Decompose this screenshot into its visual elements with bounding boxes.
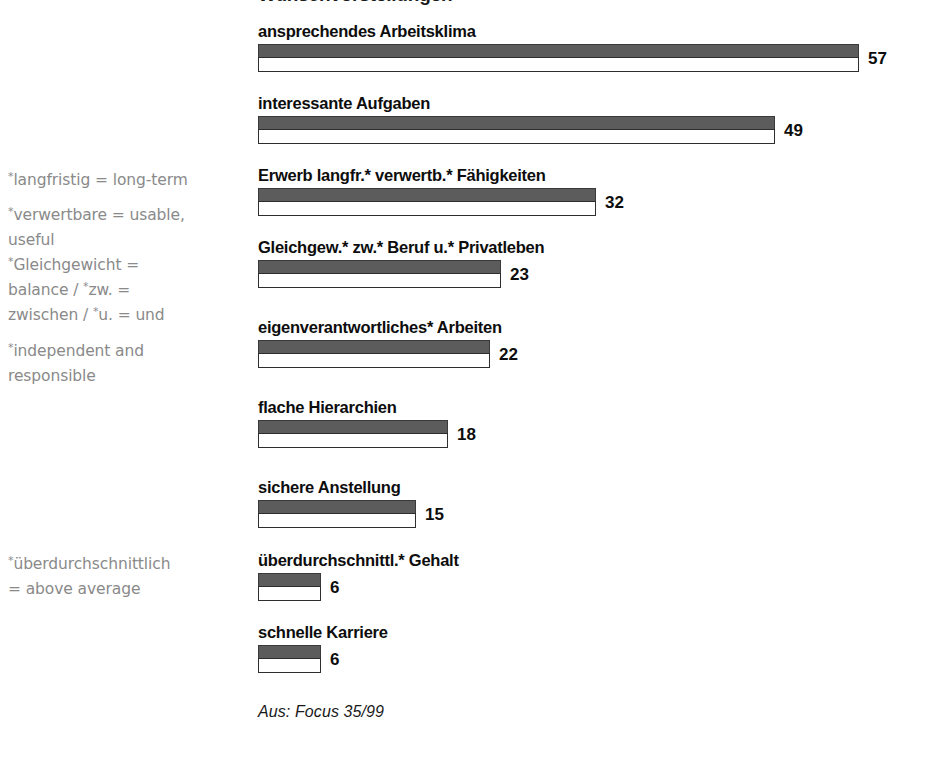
- bar-value: 6: [330, 579, 339, 596]
- annotation-line: useful: [8, 228, 246, 253]
- bar-label: interessante Aufgaben: [258, 94, 430, 113]
- bar-outline-segment: [258, 273, 501, 288]
- bar-fill-segment: [258, 188, 596, 201]
- bar-label: eigenverantwortliches* Arbeiten: [258, 318, 502, 337]
- annotation-column: *langfristig = long-term*verwertbare = u…: [4, 0, 250, 758]
- bar-value: 49: [784, 122, 803, 139]
- bar: [258, 573, 321, 601]
- bar-label: überdurchschnittl.* Gehalt: [258, 551, 459, 570]
- bar: [258, 188, 596, 216]
- bar-outline-segment: [258, 513, 416, 528]
- bar: [258, 116, 775, 144]
- bar-value: 18: [457, 426, 476, 443]
- annot-verwertbare: *verwertbare = usable,useful: [8, 203, 246, 253]
- annot-ueberdurchschnittlich: *überdurchschnittlich= above average: [8, 552, 246, 602]
- footnote-star: *: [8, 205, 13, 218]
- bar-label: Gleichgew.* zw.* Beruf u.* Privatleben: [258, 238, 544, 257]
- bar: [258, 340, 490, 368]
- bar-fill-segment: [258, 44, 859, 57]
- annotation-line: *überdurchschnittlich: [8, 552, 246, 577]
- bar: [258, 500, 416, 528]
- annotation-line: = above average: [8, 577, 246, 602]
- bar-value: 6: [330, 651, 339, 668]
- footnote-star: *: [83, 280, 88, 293]
- footnote-star: *: [8, 341, 13, 354]
- bar-label: schnelle Karriere: [258, 623, 388, 642]
- bar-value: 15: [425, 506, 444, 523]
- bar: [258, 645, 321, 673]
- bar: [258, 420, 448, 448]
- annot-independent: *independent andresponsible: [8, 339, 246, 389]
- annot-langfristig: *langfristig = long-term: [8, 168, 246, 193]
- bar-outline-segment: [258, 433, 448, 448]
- bar-fill-segment: [258, 420, 448, 433]
- source-caption: Aus: Focus 35/99: [258, 703, 384, 721]
- bar-fill-segment: [258, 260, 501, 273]
- footnote-star: *: [8, 255, 13, 268]
- bar-outline-segment: [258, 57, 859, 72]
- annotation-line: zwischen / *u. = und: [8, 303, 246, 328]
- bar-fill-segment: [258, 573, 321, 586]
- annotation-line: responsible: [8, 364, 246, 389]
- bar-outline-segment: [258, 658, 321, 673]
- bar-label: flache Hierarchien: [258, 398, 397, 417]
- bar-value: 23: [510, 266, 529, 283]
- annotation-line: balance / *zw. =: [8, 278, 246, 303]
- bar: [258, 260, 501, 288]
- bar-value: 32: [605, 194, 624, 211]
- footnote-star: *: [93, 305, 98, 318]
- annotation-line: *Gleichgewicht =: [8, 253, 246, 278]
- bar-fill-segment: [258, 340, 490, 353]
- footnote-star: *: [8, 170, 13, 183]
- annotation-line: *verwertbare = usable,: [8, 203, 246, 228]
- bar-value: 22: [499, 346, 518, 363]
- annotation-line: *independent and: [8, 339, 246, 364]
- bar-outline-segment: [258, 201, 596, 216]
- bar-fill-segment: [258, 645, 321, 658]
- annot-gleichgewicht: *Gleichgewicht =balance / *zw. =zwischen…: [8, 253, 246, 328]
- bar-fill-segment: [258, 116, 775, 129]
- bar: [258, 44, 859, 72]
- bar-outline-segment: [258, 353, 490, 368]
- bar-label: ansprechendes Arbeitsklima: [258, 22, 476, 41]
- bar-chart: ansprechendes Arbeitsklima57interessante…: [258, 0, 948, 758]
- bar-outline-segment: [258, 586, 321, 601]
- bar-label: Erwerb langfr.* verwertb.* Fähigkeiten: [258, 166, 546, 185]
- footnote-star: *: [8, 554, 13, 567]
- bar-fill-segment: [258, 500, 416, 513]
- bar-outline-segment: [258, 129, 775, 144]
- annotation-line: *langfristig = long-term: [8, 168, 246, 193]
- bar-value: 57: [868, 50, 887, 67]
- bar-label: sichere Anstellung: [258, 478, 401, 497]
